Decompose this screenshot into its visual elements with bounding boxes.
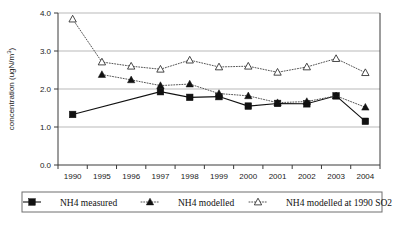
x-axis-label: 1998 [181,172,199,181]
data-point [362,69,369,76]
chart-figure: 0.01.02.03.04.01990199519961997199819992… [0,0,404,225]
x-axis-label: 2004 [356,172,374,181]
chart-canvas: 0.01.02.03.04.01990199519961997199819992… [0,0,404,225]
data-point [245,103,252,110]
x-axis-label: 2002 [298,172,316,181]
data-point [332,55,339,62]
x-axis-label: 1999 [210,172,228,181]
y-axis-title-text: concentration (ugN/m3) [6,47,16,130]
series-3 [69,15,369,75]
data-point [98,58,105,65]
x-axis-label: 2001 [269,172,287,181]
data-point [186,94,193,101]
series-line [102,75,365,108]
y-axis-label: 3.0 [40,47,52,56]
data-point [245,62,252,69]
legend-label: NH4 modelled [178,198,234,208]
legend-item-1[interactable]: NH4 measured [23,198,117,208]
x-axis-label: 1990 [64,172,82,181]
y-axis-label: 0.0 [40,161,52,170]
y-axis-label: 1.0 [40,123,52,132]
x-axis-label: 2000 [239,172,257,181]
legend-label: NH4 measured [60,198,117,208]
data-point [186,56,193,63]
x-axis-label: 2003 [327,172,345,181]
data-point [98,71,105,78]
legend-marker [29,199,36,206]
data-point [157,88,164,95]
data-point [69,15,76,22]
y-axis-title: concentration (ugN/m3) [6,47,16,130]
data-point [362,118,369,125]
legend-label: NH4 modelled at 1990 SO2 [286,198,392,208]
x-axis-label: 1996 [122,172,140,181]
data-point [362,103,369,110]
x-axis-label: 1997 [152,172,170,181]
series-2 [98,71,369,110]
y-axis-label: 2.0 [40,85,52,94]
legend-item-3[interactable]: NH4 modelled at 1990 SO2 [249,198,392,208]
y-axis-label: 4.0 [40,9,52,18]
data-point [215,63,222,70]
data-point [69,111,76,118]
data-point [186,80,193,87]
legend-item-2[interactable]: NH4 modelled [141,198,234,208]
x-axis-label: 1995 [93,172,111,181]
